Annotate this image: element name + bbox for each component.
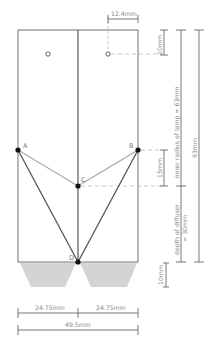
line-b-d (78, 150, 138, 262)
dim-full-width-label: 49.5mm (65, 321, 91, 328)
point-d (75, 259, 80, 264)
dim-ab-to-c-label: 15mm (156, 158, 163, 178)
hole-left-icon (46, 52, 50, 56)
dim-inner-radius-label: inner radius of lamp = 63mm (173, 87, 181, 178)
dim-half-width-right-label: 24.75mm (96, 304, 126, 311)
point-c-label: C (81, 176, 86, 184)
diffuser-right-trapezoid (80, 263, 137, 287)
lamp-cross-section-diagram: A B C D 12.4mm 10mm 15mm 10mm inner radi… (0, 0, 217, 340)
point-a (15, 147, 20, 152)
point-d-label: D (69, 254, 74, 262)
dim-half-width-left-label: 24.75mm (35, 304, 65, 311)
hole-right-icon (106, 52, 110, 56)
line-a-d (18, 150, 78, 262)
diffuser-left-trapezoid (20, 263, 76, 287)
point-c (75, 183, 80, 188)
point-a-label: A (23, 142, 28, 150)
dim-bottom-extension-label: 10mm (157, 265, 164, 285)
dim-diffuser-depth-label-2: = 30mm (181, 215, 188, 242)
dim-hole-offset-label: 12.4mm (111, 10, 137, 17)
dim-diffuser-depth-label-1: depth of diffuser (173, 203, 181, 255)
point-b (135, 147, 140, 152)
dim-top-to-hole-label: 10mm (156, 35, 163, 55)
point-b-label: B (129, 142, 133, 150)
dim-total-height-label: 93mm (191, 138, 198, 158)
